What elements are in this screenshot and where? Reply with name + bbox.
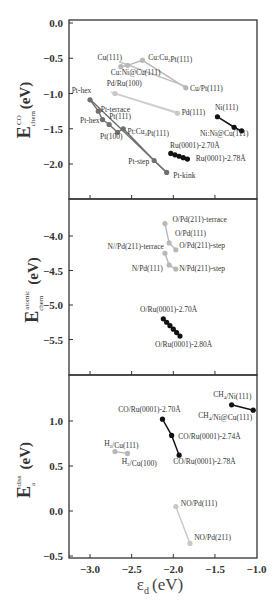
point-label: Ni:Ni@Cu(111) [200,129,249,138]
point-label: Pt-hex [80,116,100,125]
x-tick-label: −1.5 [205,563,226,575]
data-point [112,91,117,96]
y-axis-label: EchemCO(eV) [14,82,37,138]
point-label: Pt:Cu3Pt(111) [127,127,169,138]
y-tick-label: −5.5 [43,334,64,346]
y-tick-label: −0.5 [43,550,64,562]
data-point [162,221,167,226]
point-label: Cu:Cu3Pt(111) [148,53,193,64]
y-tick-label: 1.0 [49,415,63,427]
data-point [140,58,145,63]
point-label: Pd(111) [182,108,206,117]
point-label: CO/Ru(0001)-2.70Å [118,405,181,414]
data-point [173,267,178,272]
point-label: O/Pd(211)-terrace [172,215,227,224]
point-label: CO/Ru(0001)-2.74Å [178,432,241,441]
data-point [183,85,188,90]
data-point [229,402,234,407]
y-axis-label: Eadiss(eV) [14,442,37,498]
point-label: NO/Pd(111) [181,499,218,508]
data-point [185,156,190,161]
point-label: Ni(111) [215,103,239,112]
panel-bottom-dissociation-barrier: 1.00.50.0−0.5Eadiss(eV)CH4/Ni(111)CO/Ru(… [14,375,267,596]
point-label: N/Pd(111) [132,264,164,273]
point-label: Pd/Ru(100) [107,79,143,88]
panel-top-co-chemisorption: 0.0−0.5−1.0−1.5−2.0EchemCO(eV)Cu(111)Cu:… [14,17,257,199]
point-label: NO/Pd(211) [194,533,231,542]
panel-middle-atomic-chemisorption: −4.0−4.5−5.0−5.5Echematomic(eV)O/Pd(211)… [22,199,257,375]
point-label: N//Pd(211)-terrace [107,242,164,251]
point-label: H2/Cu(111) [104,439,139,450]
y-tick-label: −2.0 [43,158,64,170]
data-point [87,97,92,102]
data-point [125,451,130,456]
point-label: Ru(0001)-2.78Å [196,154,246,163]
data-point [173,504,178,509]
point-label: CH4/Ni@Cu(111) [198,411,252,422]
y-tick-label: −1.0 [43,88,64,100]
y-tick-label: −0.5 [43,52,64,64]
data-point [167,240,172,245]
x-tick-label: −1.0 [247,563,268,575]
y-tick-label: −4.5 [43,265,64,277]
data-point [177,333,182,338]
point-label: Pt-hex [72,86,92,95]
point-label: Pt-kink [173,171,195,180]
x-tick-label: −3.0 [80,563,101,575]
series-line [232,405,254,410]
point-label: N/Pd(211)-step [179,264,225,273]
data-point [175,111,180,116]
point-label: CO/Ru(0001)-2.78Å [173,457,236,466]
x-tick-label: −2.5 [122,563,143,575]
data-point [160,417,165,422]
data-point [215,114,220,119]
data-point [121,126,126,131]
point-label: O/Pd(111) [175,229,207,238]
data-point [107,122,112,127]
point-label: Cu(111) [97,53,122,62]
point-label: O/Pd(211)-step [179,241,225,250]
data-point [169,433,174,438]
y-tick-label: 0.0 [49,505,63,517]
plot-frame [69,375,257,558]
y-tick-label: 0.5 [49,460,63,472]
point-label: H2/Cu(100) [122,457,158,468]
data-point [251,408,256,413]
data-point [167,262,172,267]
data-point [125,63,130,68]
data-point [162,251,167,256]
chart-figure: 0.0−0.5−1.0−1.5−2.0EchemCO(eV)Cu(111)Cu:… [0,0,280,601]
series-line [176,507,190,544]
x-axis-label: εd(eV) [137,575,183,596]
x-tick-label: −2.0 [163,563,184,575]
point-label: Cu/Pt(111) [190,84,223,93]
y-tick-label: −4.0 [43,230,64,242]
y-tick-label: −5.0 [43,299,64,311]
point-label: Cu:Ni@Cu(111) [111,68,161,77]
y-tick-label: −1.5 [43,123,64,135]
point-label: Ru(0001)-2.70Å [170,141,220,150]
point-label: O/Ru(0001)-2.70Å [140,305,198,314]
point-label: Pt-step [128,157,149,166]
point-label: O/Ru(0001)-2.80Å [155,340,213,349]
y-axis-label: Echematomic(eV) [22,257,45,323]
data-point [100,117,105,122]
point-label: Pt(111) [109,112,131,121]
y-tick-label: 0.0 [49,17,63,29]
data-point [173,247,178,252]
data-point [152,158,157,163]
data-point [187,541,192,546]
point-label: Pt(100) [100,132,123,141]
data-point [164,170,169,175]
point-label: CH4/Ni(111) [213,390,252,401]
